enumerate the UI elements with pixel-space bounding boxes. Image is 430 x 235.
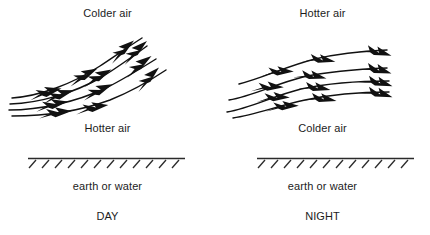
- panel-night: Hotter air: [215, 0, 430, 235]
- day-period-label: DAY: [0, 210, 215, 223]
- panel-day: Colder air: [0, 0, 215, 235]
- night-streamline-4: [233, 87, 393, 118]
- night-top-air-label: Hotter air: [215, 7, 430, 20]
- day-mid-air-label: Hotter air: [0, 122, 215, 135]
- day-ground-hatching: [29, 160, 179, 168]
- day-streamline-3: [9, 56, 156, 112]
- night-flow-diagram: [215, 26, 430, 118]
- night-ground-surface: [215, 152, 430, 176]
- day-top-air-label: Colder air: [0, 7, 215, 20]
- night-mid-air-label: Colder air: [215, 122, 430, 135]
- air-flow-figure: Colder air: [0, 0, 430, 235]
- night-period-label: NIGHT: [215, 210, 430, 223]
- day-ground-label: earth or water: [0, 180, 215, 193]
- day-streamline-1: [12, 38, 142, 100]
- day-ground-surface: [0, 152, 215, 176]
- night-ground-label: earth or water: [215, 180, 430, 193]
- day-flow-diagram: [0, 26, 215, 118]
- night-ground-hatching: [258, 160, 408, 168]
